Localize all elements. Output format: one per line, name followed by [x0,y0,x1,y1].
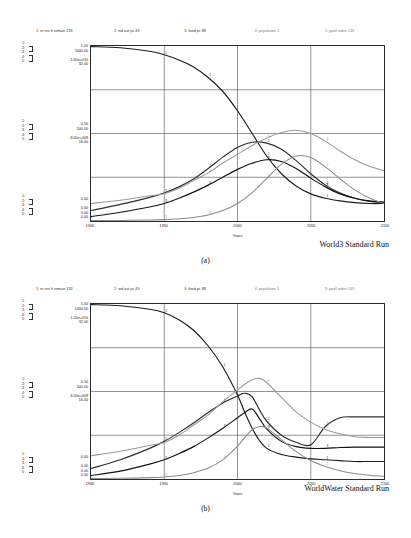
axis-scale-top-a: 1.00 1000.00 1.60e+010 32.00 [26,44,88,67]
series-point-marker: 2 [268,417,270,421]
legend-panel-a: 1: nr res fr remain 133 2: ind out pc 49… [36,26,403,36]
series-point-marker: 1 [268,444,270,448]
scale-value-4: 32.00 [26,320,88,325]
scale-value-4: 16.00 [26,140,88,145]
series-point-marker: 4 [268,379,270,383]
legend-item-population: 4: population 1 [255,284,325,294]
series-point-marker: 1 [224,363,226,367]
panel-letter-b: (b) [0,504,411,513]
legend-panel-b: 1: nr res fr remain 133 2: ind out pc 49… [36,284,403,294]
series-point-marker: 4 [165,189,167,193]
x-axis-ticks-a: 1900 1950 2000 2050 2100 [90,224,385,232]
series-point-marker: 5 [326,163,328,167]
series-point-marker: 3 [268,156,270,160]
figure-panel-a: 1: nr res fr remain 133 2: ind out pc 49… [0,0,411,270]
series-point-marker: 4 [165,438,167,442]
series-point-marker: 4 [209,169,211,173]
series-point-marker: 1 [209,73,211,77]
scale-value-4: 0.00 [26,215,88,220]
series-point-marker: 3 [326,444,328,448]
series-point-marker: 3 [209,181,211,185]
figure-panel-b: 1: nr res fr remain 133 2: ind out pc 49… [0,258,411,538]
x-tick-2050: 2050 [307,224,315,228]
axis-scale-middle-b: 0.50 500.00 6.00e+009 16.00 [26,380,88,403]
series-point-marker: 5 [165,473,167,477]
series-point-marker: 5 [268,174,270,178]
series-point-marker: 1 [165,51,167,55]
series-point-marker: 4 [326,425,328,429]
legend-item-food-pc: 3: food pc 88 [184,284,254,294]
series-point-marker: 5 [224,456,226,460]
legend-item-ind-out-pc: 2: ind out pc 49 [114,284,184,294]
scale-value-4: 32.00 [26,62,88,67]
legend-item-ppoll-index: 5: ppoll index 143 [325,26,403,36]
series-point-marker: 1 [326,456,328,460]
series-point-marker: 5 [326,462,328,466]
axis-scale-bottom-b: 0.00 0.00 0.00 0.00 [26,455,88,478]
run-label-b: WorldWater Standard Run [305,484,389,493]
x-tick-1900: 1900 [86,224,94,228]
x-tick-1950: 1950 [160,482,168,486]
legend-item-ppoll-index: 5: ppoll index 143 [325,284,403,294]
series-point-marker: 1 [326,194,328,198]
axis-scale-bottom-a: 0.00 0.00 0.00 0.00 [26,197,88,220]
legend-item-food-pc: 3: food pc 88 [184,26,254,36]
series-point-marker: 3 [165,456,167,460]
series-point-marker: 4 [224,398,226,402]
plot-area-panel-a: 11112222333344445555 [90,45,385,222]
series-point-marker: 1 [165,309,167,313]
series-point-marker: 3 [224,424,226,428]
legend-item-nr-res-fr-remain: 1: nr res fr remain 133 [36,26,114,36]
series-point-marker: 3 [326,183,328,187]
series-point-marker: 2 [268,139,270,143]
axis-scale-top-b: 1.00 1000.00 1.20e+010 32.00 [26,302,88,325]
scale-value-4: 0.00 [26,473,88,478]
x-tick-1950: 1950 [160,224,168,228]
series-point-marker: 5 [268,424,270,428]
series-point-marker: 5 [209,211,211,215]
legend-item-nr-res-fr-remain: 1: nr res fr remain 133 [36,284,114,294]
x-tick-2000: 2000 [233,482,241,486]
run-label-a: World3 Standard Run [319,240,389,249]
series-point-marker: 4 [268,134,270,138]
series-point-marker: 3 [165,199,167,203]
x-tick-2000: 2000 [233,224,241,228]
x-tick-1900: 1900 [86,482,94,486]
x-tick-2100: 2100 [381,224,389,228]
axis-scale-middle-a: 0.50 500.00 8.00e+009 16.00 [26,122,88,145]
legend-item-population: 4: population 1 [255,26,325,36]
scale-value-4: 16.00 [26,398,88,403]
x-axis-title-a: Years [90,234,385,238]
series-point-marker: 4 [326,137,328,141]
legend-item-ind-out-pc: 2: ind out pc 49 [114,26,184,36]
series-point-marker: 5 [165,215,167,219]
plot-area-panel-b: 11112222333344445555 [90,303,385,480]
